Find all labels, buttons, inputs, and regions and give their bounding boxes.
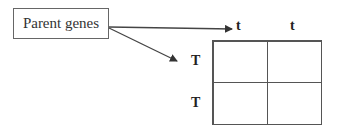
column-header-1: t [236,18,241,34]
cell-r2-c2 [267,82,322,125]
cell-r1-c1 [213,41,268,84]
punnett-square [212,40,322,125]
column-header-2: t [290,18,295,34]
row-header-1: T [191,53,200,69]
arrow-to-rows [109,28,177,61]
row-header-2: T [191,95,200,111]
cell-r2-c1 [213,82,268,125]
cell-r1-c2 [267,41,322,84]
arrow-to-columns [109,27,232,29]
